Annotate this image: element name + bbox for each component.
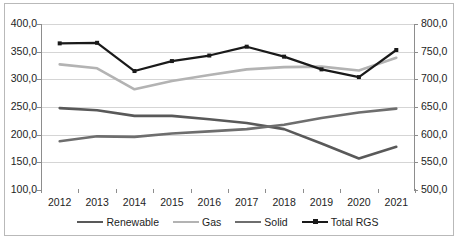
plot-area: 100,0150,0200,0250,0300,0350,0400,0 500,… (41, 24, 415, 190)
x-axis-tick-label: 2019 (302, 196, 342, 208)
y-axis-left-tick-label: 100,0 (3, 184, 37, 195)
chart-legend: RenewableGasSolidTotal RGS (41, 214, 415, 230)
x-axis-tick-label: 2014 (115, 196, 155, 208)
legend-label: Gas (202, 216, 221, 228)
legend-item[interactable]: Total RGS (302, 216, 379, 228)
legend-item[interactable]: Renewable (77, 216, 159, 228)
data-point-marker (207, 54, 211, 58)
y-axis-left-tick-label: 300,0 (3, 73, 37, 84)
chart-frame: 100,0150,0200,0250,0300,0350,0400,0 500,… (4, 3, 454, 236)
data-point-marker (282, 55, 286, 59)
y-axis-left-tick-label: 200,0 (3, 129, 37, 140)
x-axis-tick-label: 2012 (40, 196, 80, 208)
legend-item[interactable]: Solid (235, 216, 287, 228)
legend-label: Total RGS (331, 216, 379, 228)
y-axis-right-tick-label: 650,0 (421, 101, 458, 112)
y-axis-right-tick-label: 700,0 (421, 73, 458, 84)
y-axis-left-tick-label: 250,0 (3, 101, 37, 112)
data-point-marker (133, 69, 137, 73)
data-point-marker (245, 45, 249, 49)
x-axis-tick-label: 2017 (227, 196, 267, 208)
x-axis-tick-label: 2015 (152, 196, 192, 208)
x-axis-tick-label: 2016 (189, 196, 229, 208)
y-axis-left-tick-label: 350,0 (3, 46, 37, 57)
legend-label: Solid (264, 216, 287, 228)
legend-label: Renewable (106, 216, 159, 228)
legend-swatch-icon (302, 217, 328, 227)
y-axis-left-tick-label: 400,0 (3, 18, 37, 29)
data-point-marker (95, 41, 99, 45)
y-axis-left-tick-label: 150,0 (3, 156, 37, 167)
data-point-marker (58, 41, 62, 45)
legend-item[interactable]: Gas (173, 216, 221, 228)
data-point-marker (357, 75, 361, 79)
y-axis-right-tick-label: 800,0 (421, 18, 458, 29)
x-tick (415, 189, 416, 193)
legend-swatch-icon (173, 217, 199, 227)
x-axis-tick-label: 2021 (376, 196, 416, 208)
legend-swatch-icon (235, 217, 261, 227)
x-axis-tick-label: 2013 (77, 196, 117, 208)
data-point-marker (394, 48, 398, 52)
y-axis-right-tick-label: 750,0 (421, 46, 458, 57)
chart-screenshot: 100,0150,0200,0250,0300,0350,0400,0 500,… (0, 0, 458, 246)
y-axis-right-tick-label: 500,0 (421, 184, 458, 195)
x-axis-tick-label: 2020 (339, 196, 379, 208)
legend-swatch-icon (77, 217, 103, 227)
data-point-marker (320, 67, 324, 71)
y-axis-right-tick-label: 600,0 (421, 129, 458, 140)
y-axis-right-tick-label: 550,0 (421, 156, 458, 167)
series-lines (41, 24, 415, 190)
figure-caption (44, 238, 244, 246)
x-axis-tick-label: 2018 (264, 196, 304, 208)
data-point-marker (170, 59, 174, 63)
